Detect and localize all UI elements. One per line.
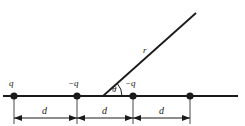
arrowhead-right-1 — [69, 115, 77, 121]
charge-label-2: −q — [68, 79, 79, 88]
ray-label-r: r — [143, 46, 147, 55]
arrowhead-left-1 — [14, 115, 22, 121]
distance-label-2: d — [102, 106, 107, 116]
diagram-canvas — [0, 0, 245, 126]
theta-arc — [117, 83, 122, 96]
charge-label-1: q — [9, 79, 14, 88]
charge-array-figure: q −q −q d d d r θ — [0, 0, 245, 126]
charge-label-3: −q — [125, 79, 136, 88]
distance-label-3: d — [159, 106, 164, 116]
charge-dot-3 — [129, 92, 136, 99]
charge-dot-1 — [10, 92, 17, 99]
charge-dot-4 — [186, 92, 193, 99]
distance-label-1: d — [42, 106, 47, 116]
angle-label-theta: θ — [112, 85, 116, 94]
arrowhead-left-2 — [77, 115, 85, 121]
arrowhead-right-3 — [182, 115, 190, 121]
arrowhead-right-2 — [125, 115, 133, 121]
arrowhead-left-3 — [133, 115, 141, 121]
charge-dot-2 — [73, 92, 80, 99]
